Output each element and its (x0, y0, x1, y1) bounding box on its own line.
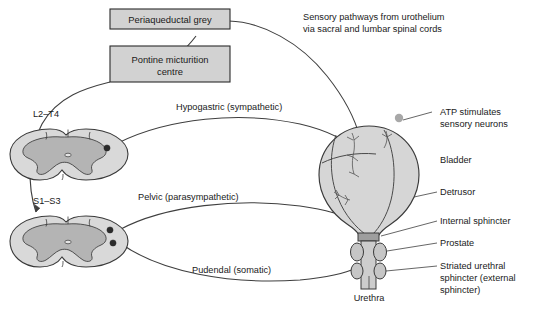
lumbar-cord-label: L2–T4 (33, 109, 59, 119)
pontine-micturition-centre-label-line1: Pontine micturition (131, 54, 208, 65)
sensory-pathway-curve (229, 21, 360, 138)
bladder-label: Bladder (440, 155, 472, 165)
periaqueductal-grey-box[interactable]: Periaqueductal grey (110, 9, 230, 29)
urethra-label: Urethra (354, 293, 386, 303)
urethra-and-sphincters (351, 233, 387, 289)
lumbar-cord-ganglion (104, 145, 110, 151)
pudendal-nerve-path (120, 243, 356, 281)
sacral-cord-ganglion-pelvic (107, 227, 113, 233)
striated-sphincter-label-line2: sphincter (external (440, 273, 516, 283)
prostate-label: Prostate (440, 238, 474, 248)
sacral-cord-ganglion-pudendal (110, 240, 116, 246)
striated-sphincter-label-line3: sphincter) (440, 285, 480, 295)
prostate-lobe-right (374, 243, 387, 261)
atp-dot (395, 114, 403, 122)
pontine-micturition-centre-box[interactable]: Pontine micturition centre (110, 46, 230, 82)
diagram-canvas: Periaqueductal grey Pontine micturition … (0, 0, 538, 309)
sacral-cord-label: S1–S3 (33, 196, 61, 206)
striated-sphincter-lobe-left (351, 263, 363, 279)
bladder-organ (319, 114, 419, 235)
striated-sphincter-lobe-right (374, 263, 386, 279)
bladder-innervation-diagram: Periaqueductal grey Pontine micturition … (0, 0, 538, 309)
lumbar-spinal-cord: L2–T4 (10, 109, 128, 180)
sensory-pathway-line1: Sensory pathways from urothelium (303, 12, 445, 22)
sensory-pathway-line2: via sacral and lumbar spinal cords (303, 24, 442, 34)
atp-label-line2: sensory neurons (440, 119, 508, 129)
atp-label-line1: ATP stimulates (440, 107, 501, 117)
pontine-micturition-centre-label-line2: centre (157, 66, 183, 77)
sacral-spinal-cord: S1–S3 (10, 196, 128, 267)
striated-sphincter-label-line1: Striated urethral (440, 261, 505, 271)
hypogastric-nerve-label: Hypogastric (sympathetic) (176, 102, 282, 112)
prostate-lobe-left (351, 243, 364, 261)
hypogastric-nerve-path (118, 118, 358, 152)
detrusor-label: Detrusor (440, 187, 475, 197)
internal-sphincter-band (358, 233, 379, 241)
pelvic-nerve-path (119, 203, 356, 230)
internal-sphincter-label: Internal sphincter (440, 216, 510, 226)
periaqueductal-grey-label: Periaqueductal grey (128, 14, 212, 25)
sensory-pathway-annotation: Sensory pathways from urothelium via sac… (303, 12, 445, 34)
pelvic-nerve-label: Pelvic (parasympathetic) (138, 192, 239, 202)
pudendal-nerve-label: Pudendal (somatic) (192, 265, 271, 275)
